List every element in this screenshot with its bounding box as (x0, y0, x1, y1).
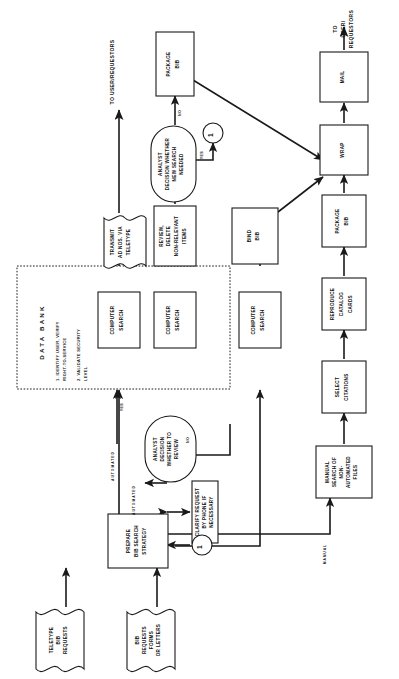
prepare-line1: PREPARE (126, 529, 131, 553)
label-mail-exit-line1: TO (332, 25, 338, 33)
node-review-delete-items[interactable]: REVIEW, DELETE NON-RELEVANT ITEMS (154, 206, 196, 266)
computer-search-1-line1: COMPUTER (110, 305, 115, 334)
node-connector-out[interactable]: 1 (203, 123, 223, 143)
form-requests-line4: OR LETTERS (156, 624, 161, 657)
bind-bib-line2: BIB (255, 231, 260, 240)
decision-review-line2: DECISION (160, 436, 165, 461)
package-bib-1-line1: PACKAGE (166, 51, 171, 76)
data-bank-item-2b: LEVEL (83, 366, 88, 381)
prepare-line3: STRATEGY (142, 527, 147, 554)
teletype-requests-line2: BIB (56, 635, 61, 644)
label-automated-main: AUTOMATED (111, 451, 115, 481)
node-package-bib-1[interactable]: PACKAGE BIB (156, 32, 194, 96)
transmit-line2: AD NOS. VIA (118, 226, 123, 258)
edge-prepare-to-manual-search (167, 498, 330, 534)
manual-search-line3: NON- (339, 465, 344, 478)
data-bank-item-2a: 2. VALIDATE SECURITY (76, 329, 81, 381)
connector-out-shape (203, 123, 223, 143)
label-automated-branch: AUTOMATED (132, 485, 136, 515)
label-no-new-search: NO (178, 110, 182, 116)
label-yes-new-search: YES (200, 151, 204, 159)
review-delete-line4: ITEMS (182, 228, 187, 244)
form-requests-line1: BIB (135, 635, 140, 644)
reproduce-line1: REPRODUCE (330, 288, 335, 321)
manual-search-line2: SEARCH OF (332, 457, 337, 487)
review-delete-line3: NON-RELEVANT (174, 216, 179, 256)
clarify-line1: CLARIFY REQUEST (195, 488, 200, 537)
decision-review-line3: WHETHER TO (167, 432, 172, 466)
form-requests-line3: FORMS (149, 631, 154, 649)
label-transmit-exit: TO USER/REQUESTORS (109, 39, 115, 104)
select-citations-line2: CITATIONS (344, 373, 349, 400)
node-reproduce-catalog-cards[interactable]: REPRODUCE CATALOG CARDS (322, 278, 366, 330)
teletype-requests-line3: REQUESTS (63, 626, 68, 654)
review-delete-line2: DELETE (166, 226, 171, 246)
reproduce-shape (322, 278, 366, 330)
connector-in-shape (192, 535, 212, 555)
node-package-bib-2[interactable]: PACKAGE BIB (322, 195, 366, 247)
package-bib-1-line2: BIB (175, 59, 180, 68)
prepare-line2: BIB SEARCH (134, 525, 139, 557)
node-transmit-teletype[interactable]: TRANSMIT AD NOS. VIA TELETYPE (104, 216, 146, 269)
node-prepare-bib-search-strategy[interactable]: PREPARE BIB SEARCH STRATEGY (108, 514, 168, 568)
computer-search-1-line2: SEARCH (119, 309, 124, 331)
decision-new-line3: NEW SEARCH (172, 146, 177, 181)
clarify-line3: NECESSARY (209, 496, 214, 528)
node-decision-new-search[interactable]: ANALYST DECISION WHETHER NEW SEARCH NEED… (151, 126, 196, 202)
node-select-citations[interactable]: SELECT CITATIONS (322, 361, 366, 413)
connector-in-label: 1 (196, 545, 203, 549)
label-manual-track: MANUAL (323, 544, 327, 564)
bind-bib-line1: BIND (247, 229, 252, 242)
teletype-requests-line1: TELETYPE (49, 627, 54, 654)
manual-search-line5: FILES (353, 465, 358, 480)
label-mail-exit-line2: USER/ (340, 20, 346, 37)
transmit-line1: TRANSMIT (110, 229, 115, 256)
node-manual-search[interactable]: MANUAL SEARCH OF NON- AUTOMATED FILES (316, 446, 372, 498)
edge-decision-new-yes (196, 143, 213, 160)
computer-search-3-line1: COMPUTER (251, 305, 256, 334)
manual-search-line4: AUTOMATED (346, 456, 351, 488)
review-delete-line1: REVIEW, (159, 225, 164, 247)
node-computer-search-1[interactable]: COMPUTER SEARCH (98, 292, 140, 348)
select-citations-line1: SELECT (335, 377, 340, 397)
connector-out-label: 1 (207, 133, 214, 137)
manual-search-line1: MANUAL (325, 461, 330, 483)
flowchart-canvas: DATA BANK 1. IDENTIFY USER, VERIFY RIGHT… (0, 0, 399, 679)
node-computer-search-2[interactable]: COMPUTER SEARCH (154, 292, 196, 348)
label-yes-review: YES (120, 403, 124, 411)
edge-bind-to-wrap (278, 177, 323, 212)
data-bank-item-1b: RIGHT-TO-SERVICE (62, 338, 67, 381)
node-computer-search-3[interactable]: COMPUTER SEARCH (239, 292, 281, 348)
decision-new-line1: ANALYST (158, 152, 163, 176)
clarify-line2: BY PHONE IF (202, 495, 207, 528)
form-requests-line2: REQUESTS (142, 626, 147, 654)
label-mail-exit-line3: REQUESTORS (348, 9, 354, 48)
reproduce-line3: CARDS (348, 295, 353, 313)
package-bib-2-line1: PACKAGE (335, 208, 340, 233)
node-wrap[interactable]: WRAP (320, 125, 368, 175)
computer-search-2-line2: SEARCH (175, 309, 180, 331)
package-bib-2-line2: BIB (344, 216, 349, 225)
edge-labels: AUTOMATED AUTOMATED MANUAL YES NO YES NO (111, 110, 327, 564)
label-no-review: NO (186, 437, 190, 443)
reproduce-line2: CATALOG (339, 292, 344, 317)
data-bank-item-1a: 1. IDENTIFY USER, VERIFY (55, 321, 60, 381)
node-decision-whether-to-review[interactable]: ANALYST DECISION WHETHER TO REVIEW (145, 416, 196, 482)
node-teletype-requests[interactable]: TELETYPE BIB REQUESTS (36, 609, 84, 671)
decision-new-line4: NEEDED (179, 153, 184, 175)
decision-review-line4: REVIEW (174, 439, 179, 460)
wrap-label: WRAP (340, 142, 345, 157)
node-clarify-request[interactable]: CLARIFY REQUEST BY PHONE IF NECESSARY (192, 481, 218, 543)
computer-search-3-line2: SEARCH (260, 309, 265, 331)
node-mail[interactable]: MAIL (320, 52, 368, 102)
transmit-line3: TELETYPE (126, 229, 131, 256)
decision-review-line1: ANALYST (153, 437, 158, 461)
computer-search-2-line1: COMPUTER (166, 305, 171, 334)
data-bank-title: DATA BANK (38, 304, 45, 359)
node-connector-in[interactable]: 1 (192, 535, 212, 555)
decision-new-line2: DECISION WHETHER (165, 138, 170, 191)
mail-label: MAIL (340, 71, 345, 84)
flowchart-svg: DATA BANK 1. IDENTIFY USER, VERIFY RIGHT… (0, 0, 399, 679)
node-bind-bib[interactable]: BIND BIB (232, 208, 278, 264)
node-form-requests[interactable]: BIB REQUESTS FORMS OR LETTERS (127, 609, 175, 671)
